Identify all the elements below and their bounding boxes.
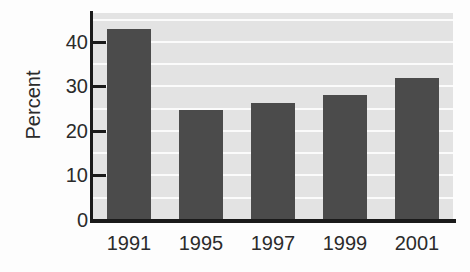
bar: [395, 78, 440, 220]
y-tick-mark: [93, 41, 106, 44]
bar: [251, 103, 296, 220]
bar: [107, 29, 152, 220]
x-tick-label: 1991: [93, 230, 165, 256]
y-tick-label: 0: [44, 210, 88, 230]
x-tick-label: 1999: [309, 230, 381, 256]
gridline: [93, 19, 453, 21]
x-tick-label: 1997: [237, 230, 309, 256]
y-tick-label: 10: [44, 165, 88, 185]
y-tick-mark: [93, 85, 106, 88]
x-axis-spine: [90, 219, 456, 223]
y-tick-label: 40: [44, 32, 88, 52]
y-tick-mark: [93, 174, 106, 177]
x-tick-label: 1995: [165, 230, 237, 256]
y-tick-label: 30: [44, 76, 88, 96]
bar-chart: Percent 010203040 19911995199719992001: [0, 0, 470, 272]
plot-area: [93, 13, 453, 220]
bar: [323, 95, 368, 220]
bar: [179, 110, 224, 220]
x-axis-tick-labels: 19911995199719992001: [93, 230, 453, 260]
y-tick-label: 20: [44, 121, 88, 141]
y-tick-mark: [93, 130, 106, 133]
x-tick-label: 2001: [381, 230, 453, 256]
y-axis-tick-labels: 010203040: [40, 0, 88, 272]
